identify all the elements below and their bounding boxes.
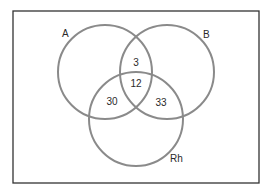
venn-diagram: A B Rh 3 12 30 33	[0, 0, 274, 192]
region-a-b: 3	[133, 57, 139, 68]
region-b-rh: 33	[155, 97, 167, 108]
region-a-b-rh: 12	[130, 78, 142, 89]
set-label-b: B	[203, 29, 210, 40]
set-label-rh: Rh	[170, 153, 183, 164]
region-a-rh: 30	[106, 96, 118, 107]
set-label-a: A	[62, 28, 69, 39]
